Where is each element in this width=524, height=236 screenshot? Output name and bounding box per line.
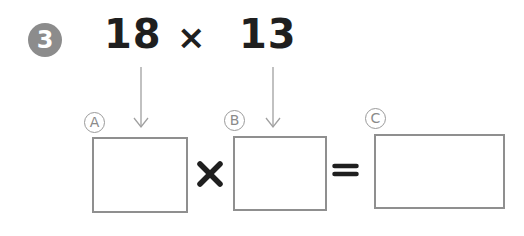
problem-number-badge: 3 [28,23,62,57]
box-label-a: A [84,112,105,133]
answer-box-b[interactable] [233,136,327,211]
arrow-down-icon [265,67,281,129]
arrow-down-icon [133,67,149,129]
times-icon [196,160,224,188]
equals-icon [332,163,359,178]
operator: × [177,15,207,59]
answer-box-c[interactable] [374,134,505,209]
box-label-b: B [224,110,245,131]
operand-a: 18 [104,12,162,56]
operand-b: 13 [239,12,297,56]
box-label-c: C [365,108,386,129]
answer-box-a[interactable] [92,137,188,213]
